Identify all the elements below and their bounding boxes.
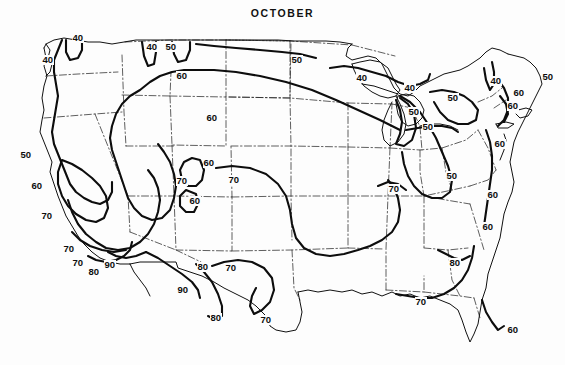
contour-map-figure: OCTOBER [0,0,565,365]
contour-label: 40 [42,55,54,65]
contour-label: 50 [165,42,177,52]
contour-label: 80 [88,267,100,277]
contour-label: 60 [494,139,506,149]
contour-label: 50 [422,122,434,132]
contour-label: 70 [260,315,272,325]
us-contour-map-canvas [0,0,565,365]
contour-label: 50 [408,107,420,117]
contour-label: 50 [446,171,458,181]
contour-label: 40 [72,33,84,43]
contour-label: 80 [449,258,461,268]
state-boundaries [44,40,506,318]
contour-label: 70 [72,258,84,268]
contour-60-north-east [196,70,400,130]
contour-label: 60 [487,190,499,200]
contour-label: 70 [388,184,400,194]
contour-label: 70 [176,176,188,186]
contour-label: 70 [63,244,75,254]
contour-lines [52,40,508,330]
contour-label: 60 [482,222,494,232]
contour-label: 50 [291,55,303,65]
contour-label: 60 [31,181,43,191]
contour-50-pacific [52,40,112,204]
contour-40-nw [66,40,82,60]
contour-70-plains [216,166,400,256]
contour-90-arizona [146,252,200,298]
contour-label: 70 [415,297,427,307]
contour-label: 40 [146,42,158,52]
contour-label: 60 [507,325,519,335]
contour-label: 60 [507,101,519,111]
contour-70-gulf [396,246,474,298]
contour-60-midatlantic [484,130,492,226]
contour-label: 50 [20,150,32,160]
contour-label: 70 [41,211,53,221]
contour-label: 60 [176,71,188,81]
contour-label: 50 [447,93,459,103]
contour-label: 90 [104,260,116,270]
contour-label: 70 [225,263,237,273]
contour-label: 60 [189,196,201,206]
contour-label: 40 [356,73,368,83]
contour-label: 60 [513,88,525,98]
contour-label: 60 [203,158,215,168]
contour-label: 70 [228,175,240,185]
contour-60-florida [482,300,504,330]
contour-label: 80 [197,262,209,272]
contour-label: 40 [404,83,416,93]
contour-label: 50 [542,72,554,82]
contour-label: 40 [490,76,502,86]
contour-label: 80 [210,313,222,323]
contour-60-california [58,160,108,222]
contour-label: 60 [206,113,218,123]
contour-label: 90 [177,285,189,295]
